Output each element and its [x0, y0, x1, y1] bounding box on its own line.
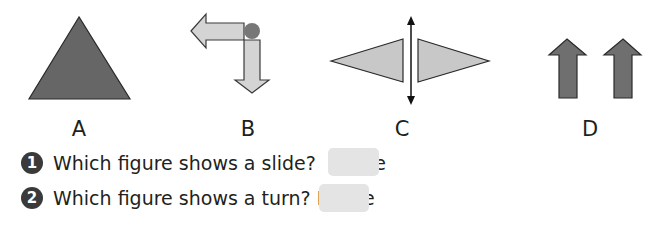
figures-illustration — [0, 0, 665, 145]
figure-label-b: B — [241, 116, 255, 142]
figure-c-flip — [331, 16, 489, 105]
figure-label-d: D — [582, 116, 598, 142]
answer-box-1[interactable] — [328, 148, 379, 176]
up-arrow-icon — [604, 39, 641, 98]
pivot-point-icon — [244, 23, 260, 39]
answer-box-2[interactable] — [319, 184, 369, 212]
figure-a-triangle — [29, 17, 130, 99]
figure-label-a: A — [72, 116, 86, 142]
question-number-badge: 1 — [21, 152, 43, 174]
down-arrow-icon — [235, 40, 269, 93]
figure-label-c: C — [395, 116, 410, 142]
figure-d-slide — [549, 39, 641, 98]
up-arrow-icon — [549, 39, 586, 98]
figure-b-turn — [191, 14, 269, 93]
question-number-badge: 2 — [21, 187, 43, 209]
left-arrow-icon — [191, 14, 244, 48]
